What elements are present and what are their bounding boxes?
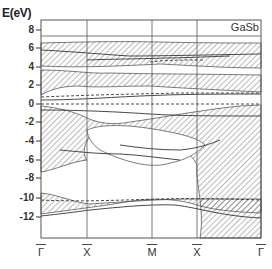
projected-bulk-bands [41, 42, 261, 238]
x-tick-x-2: X [190, 244, 204, 258]
x-tick-x-1: X [80, 244, 94, 258]
plot-area [0, 0, 272, 269]
x-tick-m: M [145, 244, 159, 258]
x-tick-gamma-start: Γ [34, 244, 48, 258]
x-tick-gamma-end: Γ [254, 244, 268, 258]
y-ticks [36, 30, 41, 217]
